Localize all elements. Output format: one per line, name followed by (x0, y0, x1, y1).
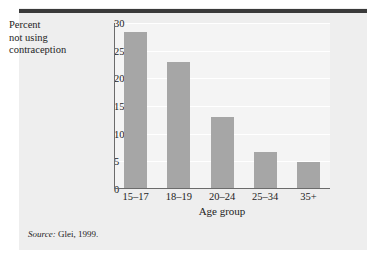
x-axis-title: Age group (114, 205, 330, 217)
source-label: Source: (28, 229, 56, 239)
top-rule (19, 9, 367, 13)
x-axis-tick-labels: 15–1718–1920–2425–3435+ (114, 191, 330, 202)
bar-slot (244, 23, 287, 188)
bar (254, 152, 277, 188)
y-axis-title: Percent not using contraception (9, 19, 101, 57)
y-axis-title-line-2: not using (9, 32, 101, 45)
x-axis-tick-label: 25–34 (244, 191, 287, 202)
source-note: Source: Glei, 1999. (28, 229, 98, 239)
bar-series (114, 23, 330, 188)
plot-area: 051015202530 (92, 23, 330, 189)
bar (211, 117, 234, 189)
x-axis-line (114, 188, 330, 189)
bar (297, 162, 320, 188)
x-axis-tick-label: 20–24 (200, 191, 243, 202)
bar-slot (114, 23, 157, 188)
y-axis-title-line-3: contraception (9, 44, 101, 57)
x-axis-tick-label: 15–17 (114, 191, 157, 202)
x-axis-tick-label: 35+ (287, 191, 330, 202)
bar (124, 32, 147, 188)
bar-slot (157, 23, 200, 188)
y-axis-title-line-1: Percent (9, 19, 101, 32)
bar-slot (200, 23, 243, 188)
bar-slot (287, 23, 330, 188)
x-axis-tick-label: 18–19 (157, 191, 200, 202)
bar (167, 62, 190, 189)
source-citation: Glei, 1999. (56, 229, 99, 239)
